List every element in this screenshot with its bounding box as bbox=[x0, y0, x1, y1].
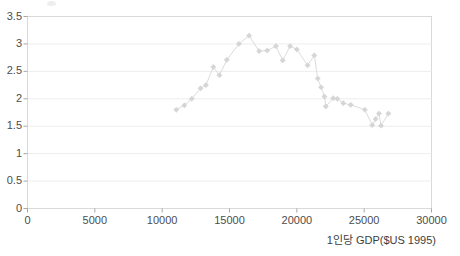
data-point-marker bbox=[378, 123, 383, 128]
data-point-marker bbox=[265, 48, 270, 53]
x-axis-title: 1인당 GDP($US 1995) bbox=[327, 234, 436, 247]
data-point-marker bbox=[315, 76, 320, 81]
x-tick-label: 30000 bbox=[416, 215, 447, 226]
x-tick-label: 15000 bbox=[214, 215, 245, 226]
gridlines-group bbox=[28, 44, 432, 181]
data-point-marker bbox=[376, 111, 381, 116]
data-point-marker bbox=[318, 85, 323, 90]
data-point-marker bbox=[348, 102, 353, 107]
data-point-marker bbox=[174, 107, 179, 112]
x-tick-label: 25000 bbox=[349, 215, 380, 226]
data-point-marker bbox=[386, 111, 391, 116]
y-tick-label: 3.5 bbox=[0, 11, 22, 22]
data-point-marker bbox=[373, 116, 378, 121]
x-tick-label: 0 bbox=[24, 215, 30, 226]
y-tick-label: 0 bbox=[0, 203, 22, 214]
x-tick-label: 20000 bbox=[282, 215, 313, 226]
data-point-marker bbox=[257, 48, 262, 53]
y-tick-label: 3 bbox=[0, 38, 22, 49]
y-tick-label: 2 bbox=[0, 93, 22, 104]
y-tick-marks-group bbox=[24, 17, 28, 209]
series-line bbox=[176, 36, 388, 126]
data-point-marker bbox=[362, 107, 367, 112]
x-tick-label: 5000 bbox=[83, 215, 107, 226]
y-tick-label: 2.5 bbox=[0, 65, 22, 76]
x-tick-marks-group bbox=[28, 209, 432, 213]
data-series-layer bbox=[174, 33, 391, 128]
y-tick-label: 1.5 bbox=[0, 120, 22, 131]
x-tick-label: 10000 bbox=[147, 215, 178, 226]
data-point-marker bbox=[280, 58, 285, 63]
data-point-marker bbox=[370, 123, 375, 128]
y-tick-label: 1 bbox=[0, 148, 22, 159]
chart-container: 00.511.522.533.5 05000100001500020000250… bbox=[0, 0, 460, 256]
series-markers-group bbox=[174, 33, 391, 128]
data-point-marker bbox=[203, 82, 208, 87]
y-tick-label: 0.5 bbox=[0, 175, 22, 186]
